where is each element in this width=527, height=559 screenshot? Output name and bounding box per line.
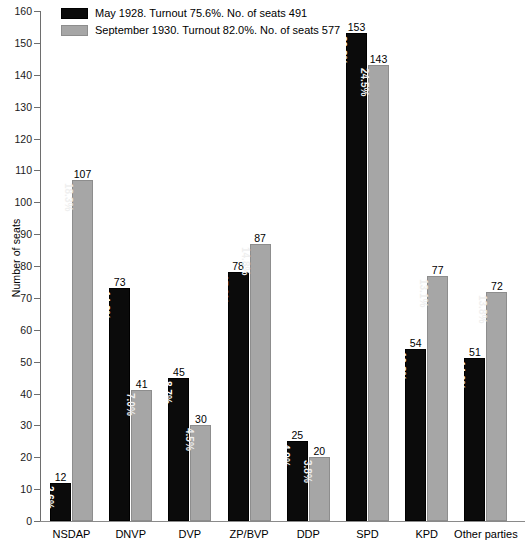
bar-group: 458.7%304.5% xyxy=(168,11,211,521)
legend-swatch xyxy=(61,25,88,36)
y-axis-tick-label: 60 xyxy=(2,325,32,335)
y-axis-tick-label: 110 xyxy=(2,165,32,175)
y-axis-tick xyxy=(34,489,40,490)
y-axis-tick xyxy=(34,234,40,235)
y-axis-tick-label: 130 xyxy=(2,102,32,112)
bar-value-label: 73 xyxy=(114,276,126,288)
bar-value-label: 20 xyxy=(313,445,325,457)
bar-value-label: 12 xyxy=(55,471,67,483)
bar-group: 7314.2%417.0% xyxy=(109,11,152,521)
bar-percent-label: 4.5% xyxy=(184,428,195,451)
y-axis-tick-label: 70 xyxy=(2,293,32,303)
bar-value-label: 72 xyxy=(491,280,503,292)
legend-swatch xyxy=(61,8,88,19)
y-axis-tick-label: 150 xyxy=(2,38,32,48)
legend-item[interactable]: September 1930. Turnout 82.0%. No. of se… xyxy=(61,23,340,37)
y-axis-tick-label: 50 xyxy=(2,357,32,367)
y-axis-tick xyxy=(34,521,40,522)
bar-percent-label: 10.8% xyxy=(396,352,407,380)
y-axis-tick xyxy=(34,425,40,426)
y-axis-tick xyxy=(34,107,40,108)
y-axis-tick-label: 10 xyxy=(2,484,32,494)
bar-ddp-september-1930[interactable]: 203.8% xyxy=(309,457,330,521)
x-axis-line xyxy=(40,521,525,522)
y-axis-tick-label: 100 xyxy=(2,197,32,207)
bar-percent-label: 24.5% xyxy=(359,68,370,96)
legend-label: May 1928. Turnout 75.6%. No. of seats 49… xyxy=(95,7,307,19)
bar-kpd-september-1930[interactable]: 7713.1% xyxy=(427,276,448,521)
bar-value-label: 51 xyxy=(469,346,481,358)
y-axis-tick-label: 120 xyxy=(2,134,32,144)
y-axis-tick-label: 40 xyxy=(2,389,32,399)
y-axis-tick-label: 90 xyxy=(2,229,32,239)
bar-group: 5114.0%7213.8% xyxy=(464,11,507,521)
bar-value-label: 54 xyxy=(410,337,422,349)
bar-nsdap-may-1928[interactable]: 122.6% xyxy=(50,483,71,521)
bar-percent-label: 13.1% xyxy=(418,279,429,307)
bar-value-label: 25 xyxy=(291,429,303,441)
plot-area: 122.6%10718.3%7314.2%417.0%458.7%304.5%7… xyxy=(41,11,525,521)
y-axis-tick xyxy=(34,139,40,140)
bar-percent-label: 15.2% xyxy=(218,275,229,303)
x-axis-label-other-parties: Other parties xyxy=(436,528,527,540)
y-axis-tick-label: 30 xyxy=(2,420,32,430)
bar-spd-may-1928[interactable]: 15329.8% xyxy=(346,33,367,521)
bar-value-label: 77 xyxy=(432,264,444,276)
bar-percent-label: 14.2% xyxy=(100,291,111,319)
bar-kpd-may-1928[interactable]: 5410.8% xyxy=(405,349,426,521)
legend-item[interactable]: May 1928. Turnout 75.6%. No. of seats 49… xyxy=(61,6,340,20)
bar-dnvp-september-1930[interactable]: 417.0% xyxy=(131,390,152,521)
y-axis-tick xyxy=(34,170,40,171)
y-axis-tick xyxy=(34,457,40,458)
bar-group: 15329.8%14324.5% xyxy=(346,11,389,521)
bar-value-label: 45 xyxy=(173,366,185,378)
bar-group: 7815.2%8714.8% xyxy=(228,11,271,521)
bar-dvp-september-1930[interactable]: 304.5% xyxy=(190,425,211,521)
bar-value-label: 143 xyxy=(370,53,388,65)
bar-percent-label: 13.8% xyxy=(477,295,488,323)
legend: May 1928. Turnout 75.6%. No. of seats 49… xyxy=(61,6,340,40)
bar-percent-label: 18.3% xyxy=(63,183,74,211)
bar-spd-september-1930[interactable]: 14324.5% xyxy=(368,65,389,521)
y-axis-tick-label: 20 xyxy=(2,452,32,462)
y-axis-tick xyxy=(34,75,40,76)
bar-value-label: 87 xyxy=(254,232,266,244)
bar-percent-label: 3.8% xyxy=(302,460,313,483)
y-axis-tick xyxy=(34,362,40,363)
bar-group: 5410.8%7713.1% xyxy=(405,11,448,521)
y-axis-tick xyxy=(34,266,40,267)
y-axis-tick xyxy=(34,298,40,299)
bar-percent-label: 8.7% xyxy=(162,381,173,404)
bar-percent-label: 14.0% xyxy=(455,361,466,389)
y-axis-tick xyxy=(34,330,40,331)
bar-value-label: 30 xyxy=(195,413,207,425)
bar-group: 122.6%10718.3% xyxy=(50,11,93,521)
bar-nsdap-september-1930[interactable]: 10718.3% xyxy=(72,180,93,521)
y-axis-tick xyxy=(34,11,40,12)
bar-other-parties-september-1930[interactable]: 7213.8% xyxy=(486,292,507,522)
y-axis-tick-label: 160 xyxy=(2,6,32,16)
y-axis-tick xyxy=(34,394,40,395)
y-axis-tick-label: 0 xyxy=(2,516,32,526)
bar-percent-label: 7.0% xyxy=(125,393,136,416)
bar-percent-label: 4.9% xyxy=(280,444,291,467)
bar-value-label: 153 xyxy=(348,21,366,33)
bar-group: 254.9%203.8% xyxy=(287,11,330,521)
bar-percent-label: 14.8% xyxy=(240,247,251,275)
bar-value-label: 41 xyxy=(136,378,148,390)
bar-chart: Number of seats 010203040506070809010011… xyxy=(0,0,527,559)
y-axis-tick xyxy=(34,202,40,203)
bar-percent-label: 2.6% xyxy=(44,486,55,509)
bar-percent-label: 29.8% xyxy=(337,36,348,64)
y-axis-tick-label: 80 xyxy=(2,261,32,271)
bar-zp-bvp-september-1930[interactable]: 8714.8% xyxy=(250,244,271,521)
y-axis-tick-label: 140 xyxy=(2,70,32,80)
bar-zp-bvp-may-1928[interactable]: 7815.2% xyxy=(228,272,249,521)
y-axis-tick xyxy=(34,43,40,44)
bar-value-label: 107 xyxy=(74,168,92,180)
bar-other-parties-may-1928[interactable]: 5114.0% xyxy=(464,358,485,521)
legend-label: September 1930. Turnout 82.0%. No. of se… xyxy=(95,24,340,36)
